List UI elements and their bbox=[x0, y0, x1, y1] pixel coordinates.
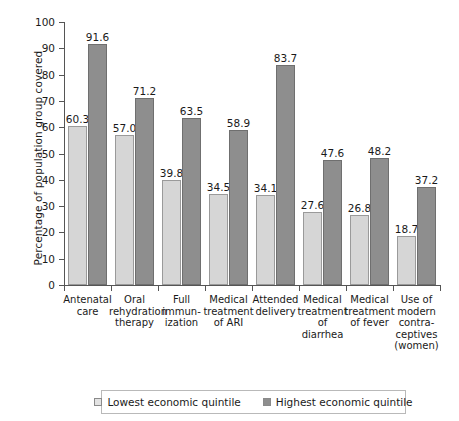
bar-value-label: 26.8 bbox=[348, 202, 371, 214]
category-label-line: Use of bbox=[391, 294, 442, 306]
x-axis-category-label: Fullimmun-ization bbox=[156, 294, 207, 329]
bar: 63.5 bbox=[182, 118, 201, 285]
chart-legend: Lowest economic quintile Highest economi… bbox=[101, 390, 406, 414]
bar: 39.8 bbox=[162, 180, 181, 285]
x-axis-category-label: Use ofmoderncontra-ceptives(women) bbox=[391, 294, 442, 352]
bar-value-label: 60.3 bbox=[66, 113, 89, 125]
y-axis-tick-mark bbox=[59, 22, 64, 23]
category-label-line: ceptives bbox=[391, 329, 442, 341]
y-axis-tick-label: 20 bbox=[42, 226, 55, 238]
x-axis-separator bbox=[252, 285, 253, 291]
y-axis-tick-label: 100 bbox=[35, 16, 55, 28]
y-axis-tick-mark bbox=[59, 206, 64, 207]
x-axis-separator bbox=[64, 285, 65, 291]
bar: 27.6 bbox=[303, 212, 322, 285]
bar-value-label: 37.2 bbox=[415, 174, 438, 186]
bar: 37.2 bbox=[417, 187, 436, 285]
bar-value-label: 71.2 bbox=[133, 85, 156, 97]
bar: 48.2 bbox=[370, 158, 389, 285]
category-label-line: Full bbox=[156, 294, 207, 306]
category-label-line: care bbox=[62, 306, 113, 318]
bar: 91.6 bbox=[88, 44, 107, 285]
bar-value-label: 48.2 bbox=[368, 145, 391, 157]
x-axis-separator bbox=[346, 285, 347, 291]
y-axis-tick-mark bbox=[59, 154, 64, 155]
legend-swatch-icon-highest bbox=[263, 398, 271, 406]
category-label-line: Attended bbox=[250, 294, 301, 306]
y-axis-tick-mark bbox=[59, 232, 64, 233]
category-label-line: treatment bbox=[297, 306, 348, 318]
x-axis-category-label: Oralrehydrationtherapy bbox=[109, 294, 160, 329]
legend-entry-lowest: Lowest economic quintile bbox=[94, 396, 240, 408]
y-axis-tick-mark bbox=[59, 259, 64, 260]
y-axis-tick-label: 0 bbox=[48, 279, 55, 291]
plot-area: 0102030405060708090100 60.391.657.071.23… bbox=[64, 22, 440, 285]
bar: 83.7 bbox=[276, 65, 295, 285]
y-axis-tick-label: 40 bbox=[42, 174, 55, 186]
category-label-line: immun- bbox=[156, 306, 207, 318]
bar: 57.0 bbox=[115, 135, 134, 285]
category-label-line: modern bbox=[391, 306, 442, 318]
category-label-line: Oral bbox=[109, 294, 160, 306]
bar: 58.9 bbox=[229, 130, 248, 285]
bar: 34.1 bbox=[256, 195, 275, 285]
bar: 60.3 bbox=[68, 126, 87, 285]
y-axis-tick-label: 30 bbox=[42, 200, 55, 212]
bar: 34.5 bbox=[209, 194, 228, 285]
legend-swatch-icon-lowest bbox=[94, 398, 102, 406]
legend-label-lowest: Lowest economic quintile bbox=[107, 396, 240, 408]
bar-value-label: 18.7 bbox=[395, 223, 418, 235]
category-label-line: Medical bbox=[203, 294, 254, 306]
bar-chart: Percentage of population group covered 0… bbox=[0, 0, 459, 421]
legend-entry-highest: Highest economic quintile bbox=[263, 396, 413, 408]
x-axis-category-label: Medicaltreatmentof diarrhea bbox=[297, 294, 348, 340]
category-label-line: contra- bbox=[391, 317, 442, 329]
category-label-line: delivery bbox=[250, 306, 301, 318]
x-axis-separator bbox=[299, 285, 300, 291]
y-axis-tick-label: 80 bbox=[42, 69, 55, 81]
category-label-line: therapy bbox=[109, 317, 160, 329]
bar-value-label: 47.6 bbox=[321, 147, 344, 159]
category-label-line: ization bbox=[156, 317, 207, 329]
x-axis-category-label: Antenatalcare bbox=[62, 294, 113, 317]
category-label-line: rehydration bbox=[109, 306, 160, 318]
category-label-line: Medical bbox=[297, 294, 348, 306]
bar-value-label: 63.5 bbox=[180, 105, 203, 117]
bar-value-label: 34.5 bbox=[207, 181, 230, 193]
bar-value-label: 27.6 bbox=[301, 199, 324, 211]
x-axis-separator bbox=[158, 285, 159, 291]
bar-value-label: 34.1 bbox=[254, 182, 277, 194]
bar-value-label: 91.6 bbox=[86, 31, 109, 43]
category-label-line: Antenatal bbox=[62, 294, 113, 306]
x-axis-separator bbox=[205, 285, 206, 291]
y-axis-tick-label: 60 bbox=[42, 121, 55, 133]
y-axis-tick-label: 10 bbox=[42, 253, 55, 265]
bar-value-label: 83.7 bbox=[274, 52, 297, 64]
category-label-line: of ARI bbox=[203, 317, 254, 329]
x-axis-category-label: Medicaltreatmentof fever bbox=[344, 294, 395, 329]
category-label-line: treatment bbox=[203, 306, 254, 318]
y-axis-tick-mark bbox=[59, 180, 64, 181]
y-axis-tick-label: 50 bbox=[42, 148, 55, 160]
y-axis-tick-label: 90 bbox=[42, 42, 55, 54]
bar: 71.2 bbox=[135, 98, 154, 285]
bar-value-label: 39.8 bbox=[160, 167, 183, 179]
category-label-line: treatment bbox=[344, 306, 395, 318]
x-axis-category-label: Attendeddelivery bbox=[250, 294, 301, 317]
category-label-line: (women) bbox=[391, 340, 442, 352]
bar-value-label: 58.9 bbox=[227, 117, 250, 129]
x-axis-separator bbox=[440, 285, 441, 291]
x-axis-separator bbox=[111, 285, 112, 291]
y-axis-tick-label: 70 bbox=[42, 95, 55, 107]
y-axis-tick-mark bbox=[59, 101, 64, 102]
bar: 18.7 bbox=[397, 236, 416, 285]
category-label-line: of fever bbox=[344, 317, 395, 329]
x-axis-separator bbox=[393, 285, 394, 291]
category-label-line: of diarrhea bbox=[297, 317, 348, 340]
y-axis-tick-mark bbox=[59, 127, 64, 128]
y-axis-tick-mark bbox=[59, 75, 64, 76]
bar-value-label: 57.0 bbox=[113, 122, 136, 134]
category-label-line: Medical bbox=[344, 294, 395, 306]
y-axis-tick-mark bbox=[59, 48, 64, 49]
legend-label-highest: Highest economic quintile bbox=[276, 396, 413, 408]
